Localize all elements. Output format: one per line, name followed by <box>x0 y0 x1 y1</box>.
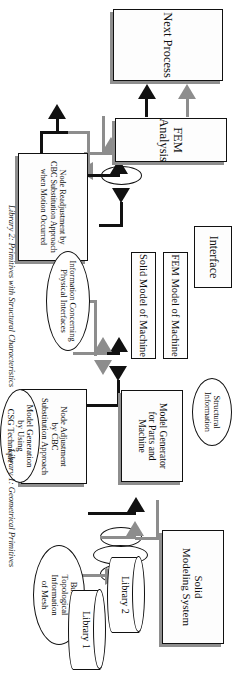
node-fem-analysis[interactable]: FEM Analysis <box>115 118 227 162</box>
node-interface[interactable]: Interface <box>194 226 232 288</box>
connector-structural-h <box>117 380 120 406</box>
node-fem-analysis-label: FEM Analysis <box>157 118 185 162</box>
arrowhead-fem-to-next-grey <box>178 84 196 99</box>
diagram-canvas: Next Process FEM Analysis Node Readjustm… <box>0 0 240 679</box>
node-solid-model-label: Solid Model of Machine <box>138 254 150 357</box>
node-model-generator-label: Model Generator for Parts and Machine <box>136 403 168 469</box>
grey-cross-h <box>94 300 97 356</box>
node-node-readjustment[interactable]: Node Readjustment by CBC Substitution Ap… <box>18 153 88 261</box>
caption-library-2-text: Library 2: Primitives with Structural Ch… <box>7 205 17 387</box>
node-model-generation-csg[interactable]: Model Generation by Using CSG Technique <box>0 389 40 483</box>
arrowhead-structural-into-junction <box>109 366 127 381</box>
node-node-readjustment-label: Node Readjustment by CBC Substitution Ap… <box>39 161 67 253</box>
node-interface-label: Interface <box>206 236 219 279</box>
arrowhead-fem-to-next-black <box>138 84 156 99</box>
arrowhead-generator-to-solidmodel <box>110 337 128 352</box>
grey-spine-a <box>100 536 136 539</box>
caption-library-2: Library 2: Primitives with Structural Ch… <box>7 205 17 387</box>
node-library-1[interactable]: Library 1 <box>68 590 105 670</box>
node-structural-information[interactable]: Structural Information <box>192 378 232 446</box>
node-library-2-label: Library 2 <box>120 576 131 614</box>
connector-solid-to-libraries <box>41 131 69 134</box>
connector-nodeadj-v <box>135 537 159 540</box>
connector-fem-next-black <box>145 99 148 117</box>
node-solid-modeling-system-label: Solid Modeling System <box>181 548 206 626</box>
connector-structural-v <box>84 404 120 407</box>
library-1-cylinder-cap <box>93 589 106 669</box>
node-info-physical-interfaces[interactable]: Information Concerning Physical Interfac… <box>46 251 90 351</box>
caption-library-1: Library 1: Geometrical Primitives <box>7 449 17 567</box>
connector-fem-next-grey <box>186 99 189 117</box>
node-structural-information-label: Structural Information <box>203 392 222 432</box>
node-model-generator[interactable]: Model Generator for Parts and Machine <box>121 390 183 482</box>
library-2-cylinder-cap <box>132 556 145 632</box>
arrowhead-spine-to-model-generator <box>127 497 145 512</box>
grey-cross-v <box>73 352 107 355</box>
merge-ring-top <box>101 166 142 185</box>
node-next-process[interactable]: Next Process <box>113 9 223 81</box>
spine-solid-to-generator <box>88 512 136 515</box>
caption-library-1-text: Library 1: Geometrical Primitives <box>7 449 17 567</box>
grey-spine-fem <box>84 152 112 155</box>
node-next-process-label: Next Process <box>161 12 175 78</box>
connector-interface-h <box>120 202 123 226</box>
grey-readjust-h <box>102 116 105 154</box>
connector-interface-v <box>99 224 123 227</box>
node-solid-model[interactable]: Solid Model of Machine <box>131 252 156 359</box>
node-library-2[interactable]: Library 2 <box>107 557 144 633</box>
node-info-physical-interfaces-label: Information Concerning Physical Interfac… <box>59 260 78 341</box>
arrowhead-interface-into-junction <box>112 188 130 203</box>
node-library-1-label: Library 1 <box>81 611 92 649</box>
connector-lib1-return-h <box>56 118 59 134</box>
node-solid-modeling-system[interactable]: Solid Modeling System <box>162 530 224 644</box>
connector-nodeadj-h <box>156 500 159 539</box>
node-fem-model-label: FEM Model of Machine <box>170 254 182 356</box>
node-fem-model[interactable]: FEM Model of Machine <box>163 252 188 359</box>
node-node-adjustment-label: Node Adjustment by CBC Substitution Appr… <box>40 398 69 475</box>
arrowhead-grey-spine-a <box>126 521 144 536</box>
arrowhead-into-solid-modeling <box>48 104 66 119</box>
